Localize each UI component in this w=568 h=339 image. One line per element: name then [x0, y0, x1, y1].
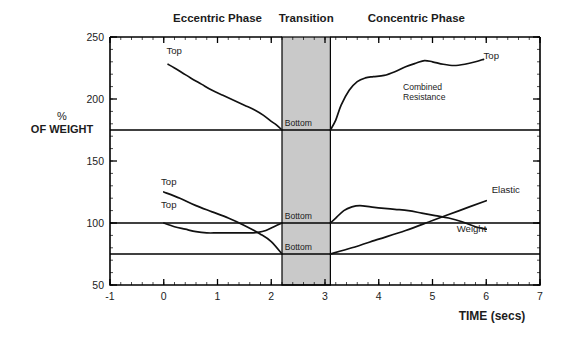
x-tick-label: 7: [537, 290, 543, 302]
series-line: [168, 64, 282, 130]
bottom-label-weight: Bottom: [285, 211, 312, 221]
y-tick-label: 250: [86, 31, 104, 43]
phase-label: Concentric Phase: [368, 12, 465, 24]
combined-resistance-label: CombinedResistance: [403, 82, 446, 102]
x-tick-label: 3: [322, 290, 328, 302]
y-tick-label: 100: [86, 217, 104, 229]
chart-figure: -10123456750100150200250Eccentric PhaseT…: [0, 0, 568, 339]
series-line: [164, 223, 282, 233]
y-tick-label: 200: [86, 93, 104, 105]
bottom-label-elastic: Bottom: [285, 242, 312, 252]
x-tick-label: 2: [268, 290, 274, 302]
elastic-label: Elastic: [492, 184, 520, 195]
top-label-elastic-eccentric: Top: [161, 176, 176, 187]
chart-canvas: -10123456750100150200250Eccentric PhaseT…: [0, 0, 568, 339]
x-tick-label: 4: [376, 290, 382, 302]
x-tick-label: -1: [105, 290, 114, 302]
top-label-combined-concentric: Top: [484, 50, 499, 61]
x-tick-label: 6: [483, 290, 489, 302]
top-label-weight-eccentric: Top: [161, 199, 176, 210]
bottom-label-combined: Bottom: [285, 118, 312, 128]
y-axis-title: %OF WEIGHT: [31, 110, 94, 135]
phase-label: Eccentric Phase: [173, 12, 262, 24]
weight-label: Weight: [457, 223, 487, 234]
x-axis-title: TIME (secs): [459, 309, 526, 323]
y-tick-label: 50: [92, 279, 104, 291]
x-tick-label: 0: [161, 290, 167, 302]
top-label-combined-eccentric: Top: [166, 45, 181, 56]
y-tick-label: 150: [86, 155, 104, 167]
x-tick-label: 5: [430, 290, 436, 302]
x-tick-label: 1: [215, 290, 221, 302]
phase-label: Transition: [279, 12, 334, 24]
